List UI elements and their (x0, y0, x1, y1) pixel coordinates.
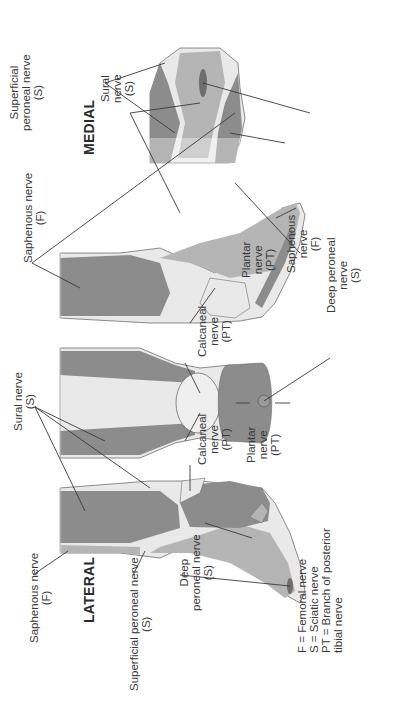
label-line: (PT) (220, 414, 232, 465)
label-line: Saphenous nerve (22, 173, 34, 263)
label-line: nerve (111, 74, 123, 103)
label-line: nerve (337, 238, 349, 313)
label-sural-nerve-posterior: Sural nerve (S) (12, 372, 36, 431)
view-title-medial: MEDIAL (81, 100, 97, 155)
label-medial-superficial-peroneal-nerve: Superficial peroneal nerve (S) (8, 54, 44, 131)
label-line: (F) (40, 553, 52, 643)
label-line: (S) (32, 54, 44, 131)
label-line: Saphenous nerve (28, 553, 40, 643)
label-line: (S) (140, 557, 152, 691)
label-dorsal-saphenous-nerve: Saphenous nerve (F) (285, 215, 321, 273)
label-medial-saphenous-nerve: Saphenous nerve (F) (22, 173, 46, 263)
label-dorsal-deep-peroneal-nerve: Deep peroneal nerve (S) (325, 238, 361, 313)
label-line: (PT) (220, 306, 232, 357)
label-line: (PT) (269, 427, 281, 463)
label-line: (F) (309, 215, 321, 273)
label-line: nerve (252, 242, 264, 278)
label-line: peroneal nerve (190, 534, 202, 611)
label-plantar-nerve-left: Plantar nerve (PT) (245, 427, 281, 463)
label-line: nerve (208, 306, 220, 357)
legend-item: tibial nerve (332, 528, 344, 653)
label-line: Superficial peroneal nerve (128, 557, 140, 691)
label-dorsal-sural-nerve: Sural nerve (S) (99, 74, 135, 103)
label-calcaneal-nerve-left: Calcaneal nerve (PT) (196, 414, 232, 465)
label-line: (S) (202, 534, 214, 611)
label-line: Deep peroneal (325, 238, 337, 313)
abbreviation-legend: F = Femoral nerve S = Sciatic nerve PT =… (296, 528, 344, 653)
label-line: (PT) (264, 242, 276, 278)
label-line: Sural nerve (12, 372, 24, 431)
rotated-diagram-canvas: LATERAL MEDIAL Saphenous nerve (F) Super… (0, 0, 412, 703)
label-line: (S) (123, 74, 135, 103)
label-calcaneal-nerve-right: Calcaneal nerve (PT) (196, 306, 232, 357)
label-line: (F) (34, 173, 46, 263)
label-line: Plantar (240, 242, 252, 278)
label-line: Calcaneal (196, 414, 208, 465)
legend-item: F = Femoral nerve (296, 528, 308, 653)
label-plantar-nerve-right: Plantar nerve (PT) (240, 242, 276, 278)
label-line: peroneal nerve (20, 54, 32, 131)
legend-item: S = Sciatic nerve (308, 528, 320, 653)
label-line: nerve (208, 414, 220, 465)
legend-item: PT = Branch of posterior (320, 528, 332, 653)
dorsal-foot (145, 48, 245, 168)
label-lateral-deep-peroneal-nerve: Deep peroneal nerve (S) (178, 534, 214, 611)
label-line: (S) (349, 238, 361, 313)
label-line: (S) (24, 372, 36, 431)
label-line: Plantar (245, 427, 257, 463)
label-line: nerve (257, 427, 269, 463)
label-line: Superficial (8, 54, 20, 131)
label-lateral-saphenous-nerve: Saphenous nerve (F) (28, 553, 52, 643)
label-lateral-superficial-peroneal-nerve: Superficial peroneal nerve (S) (128, 557, 152, 691)
view-title-lateral: LATERAL (81, 557, 97, 623)
label-line: Sural (99, 74, 111, 103)
label-line: Saphenous (285, 215, 297, 273)
label-line: nerve (297, 215, 309, 273)
label-line: Calcaneal (196, 306, 208, 357)
label-line: Deep (178, 534, 190, 611)
